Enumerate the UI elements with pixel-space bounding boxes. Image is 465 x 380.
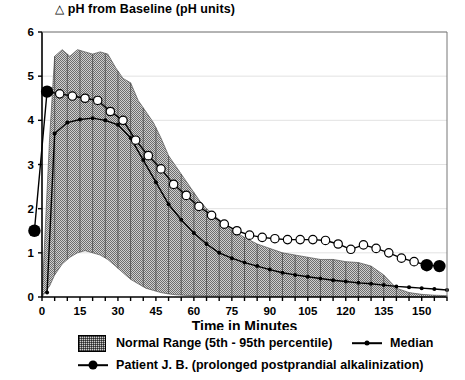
- data-point: [356, 281, 360, 285]
- data-point: [195, 202, 203, 210]
- data-point: [385, 249, 393, 257]
- x-tick-label: 90: [263, 305, 276, 317]
- plot-area: 01234560153045607590105120135150Time in …: [0, 0, 465, 330]
- x-axis: 0153045607590105120135150: [39, 297, 447, 317]
- legend-label-normal-range: Normal Range (5th - 95th percentile): [116, 336, 332, 350]
- chart-figure: △ pH from Baseline (pH units) 0123456015…: [0, 0, 465, 380]
- data-point: [296, 235, 304, 243]
- data-point: [420, 286, 424, 290]
- x-tick-label: 75: [225, 305, 238, 317]
- data-point: [243, 261, 247, 265]
- x-tick-label: 105: [298, 305, 318, 317]
- data-point: [81, 94, 89, 102]
- y-axis: 0123456: [28, 26, 42, 303]
- data-point: [331, 278, 335, 282]
- data-point: [103, 118, 107, 122]
- data-point: [167, 202, 171, 206]
- legend-row-1: Normal Range (5th - 95th percentile) Med…: [0, 332, 465, 354]
- data-point: [182, 191, 190, 199]
- data-point: [192, 231, 196, 235]
- data-point: [106, 107, 114, 115]
- data-point: [397, 254, 405, 262]
- data-point: [344, 280, 348, 284]
- y-tick-label: 6: [28, 26, 34, 38]
- x-axis-title: Time in Minutes: [192, 318, 298, 330]
- data-point: [407, 285, 411, 289]
- data-point: [53, 132, 57, 136]
- median-swatch-icon: [352, 337, 382, 349]
- y-tick-label: 3: [28, 159, 34, 171]
- data-point: [169, 180, 177, 188]
- legend-item-patient: Patient J. B. (prolonged postprandial al…: [78, 354, 424, 376]
- data-point: [283, 235, 291, 243]
- data-point: [347, 245, 355, 253]
- y-tick-label: 0: [28, 291, 34, 303]
- data-point: [271, 235, 279, 243]
- data-point: [432, 287, 436, 291]
- data-point: [382, 283, 386, 287]
- data-point: [56, 90, 64, 98]
- y-tick-label: 4: [28, 114, 35, 126]
- x-tick-label: 135: [374, 305, 394, 317]
- data-point-highlight: [433, 260, 445, 272]
- data-point: [410, 257, 418, 265]
- data-point: [45, 291, 49, 295]
- x-tick-label: 150: [412, 305, 431, 317]
- data-point: [372, 244, 380, 252]
- data-point: [318, 276, 322, 280]
- legend-label-patient: Patient J. B. (prolonged postprandial al…: [116, 358, 424, 372]
- data-point: [280, 271, 284, 275]
- data-point: [309, 235, 317, 243]
- data-point: [321, 236, 329, 244]
- data-point: [230, 256, 234, 260]
- data-point: [306, 275, 310, 279]
- patient-swatch-icon: [78, 359, 108, 371]
- data-point: [65, 121, 69, 125]
- data-point: [255, 264, 259, 268]
- data-point: [334, 240, 342, 248]
- data-point: [144, 151, 152, 159]
- legend-row-2: Patient J. B. (prolonged postprandial al…: [0, 354, 465, 376]
- data-point: [245, 231, 253, 239]
- data-point: [68, 92, 76, 100]
- x-tick-label: 60: [187, 305, 200, 317]
- data-point: [233, 227, 241, 235]
- data-point: [207, 211, 215, 219]
- data-point: [394, 284, 398, 288]
- data-point: [258, 233, 266, 241]
- data-point: [220, 220, 228, 228]
- data-point: [369, 282, 373, 286]
- x-tick-label: 0: [39, 305, 45, 317]
- x-tick-label: 15: [74, 305, 87, 317]
- data-point: [268, 268, 272, 272]
- x-tick-label: 120: [336, 305, 355, 317]
- data-point-highlight: [28, 225, 40, 237]
- x-tick-label: 45: [150, 305, 163, 317]
- data-point: [78, 117, 82, 121]
- data-point: [179, 218, 183, 222]
- legend-label-median: Median: [390, 336, 433, 350]
- legend-item-median: Median: [352, 332, 433, 354]
- data-point: [154, 180, 158, 184]
- data-point: [157, 165, 165, 173]
- data-point: [205, 242, 209, 246]
- y-tick-label: 1: [28, 247, 35, 259]
- data-point: [91, 116, 95, 120]
- data-point: [217, 251, 221, 255]
- data-point: [119, 116, 127, 124]
- normal-range-swatch-icon: [78, 335, 106, 352]
- y-tick-label: 2: [28, 203, 34, 215]
- chart-legend: Normal Range (5th - 95th percentile) Med…: [0, 330, 465, 380]
- data-point: [93, 96, 101, 104]
- y-tick-label: 5: [28, 70, 35, 82]
- data-point: [359, 241, 367, 249]
- data-point: [131, 136, 139, 144]
- data-point-highlight: [421, 259, 433, 271]
- x-tick-label: 30: [112, 305, 125, 317]
- data-point: [293, 273, 297, 277]
- legend-item-normal-range: Normal Range (5th - 95th percentile): [78, 332, 332, 354]
